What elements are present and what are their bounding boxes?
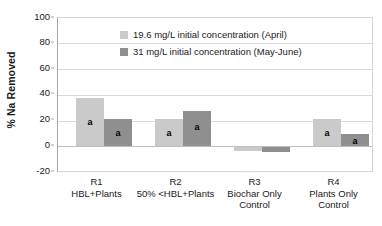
bar-r3-series1[interactable] bbox=[234, 147, 262, 151]
bar-r3-series2[interactable] bbox=[262, 147, 290, 152]
bar-label-r2-series2: a bbox=[194, 123, 199, 132]
x-label-r1-code: R1 bbox=[90, 176, 102, 187]
y-axis-title: % Na Removed bbox=[0, 0, 22, 180]
bar-label-r1-series2: a bbox=[115, 129, 120, 138]
bar-label-r1-series1: a bbox=[87, 118, 92, 127]
y-axis-title-text: % Na Removed bbox=[5, 51, 17, 128]
y-tick-label-40: 40 bbox=[39, 88, 50, 98]
x-label-group-r4: R4 Plants Only Control bbox=[290, 176, 378, 211]
bar-label-r2-series1: a bbox=[166, 129, 171, 138]
x-label-r3-code: R3 bbox=[248, 176, 260, 187]
y-tick-mark-neg20 bbox=[51, 171, 54, 172]
y-tick-mark-100 bbox=[51, 17, 54, 18]
y-tick-mark-40 bbox=[51, 93, 54, 94]
x-label-r4-line2: Plants Only bbox=[290, 188, 378, 200]
y-tick-mark-0 bbox=[51, 145, 54, 146]
x-label-r3-line2: Biochar Only bbox=[211, 188, 299, 200]
y-tick-mark-20 bbox=[51, 119, 54, 120]
bar-label-r4-series1: a bbox=[324, 129, 329, 138]
y-axis-tick-labels: 100 80 60 40 20 0 -20 bbox=[22, 0, 54, 180]
bar-label-r4-series2: a bbox=[352, 137, 357, 146]
legend-item-series2[interactable]: 31 mg/L initial concentration (May-June) bbox=[120, 43, 370, 60]
y-tick-label-60: 60 bbox=[39, 63, 50, 73]
legend-swatch-series2 bbox=[120, 48, 128, 56]
y-tick-mark-60 bbox=[51, 68, 54, 69]
legend-swatch-series1 bbox=[120, 31, 128, 39]
legend: 19.6 mg/L initial concentration (April) … bbox=[120, 26, 370, 60]
x-axis-labels: R1 HBL+Plants R2 50% <HBL+Plants R3 Bioc… bbox=[57, 176, 373, 224]
x-label-r4-line3: Control bbox=[290, 199, 378, 211]
bar-chart-figure: % Na Removed 100 80 60 40 20 0 -20 a bbox=[0, 0, 382, 226]
y-tick-label-20: 20 bbox=[39, 114, 50, 124]
y-tick-label-100: 100 bbox=[34, 12, 50, 22]
y-tick-mark-80 bbox=[51, 42, 54, 43]
y-tick-label-80: 80 bbox=[39, 37, 50, 47]
y-tick-label-0: 0 bbox=[45, 140, 50, 150]
x-label-r4-code: R4 bbox=[327, 176, 339, 187]
y-tick-label-neg20: -20 bbox=[36, 166, 50, 176]
legend-item-series1[interactable]: 19.6 mg/L initial concentration (April) bbox=[120, 26, 370, 43]
legend-label-series1: 19.6 mg/L initial concentration (April) bbox=[133, 30, 287, 40]
legend-label-series2: 31 mg/L initial concentration (May-June) bbox=[133, 47, 302, 57]
x-label-r2-code: R2 bbox=[169, 176, 181, 187]
x-label-group-r3: R3 Biochar Only Control bbox=[211, 176, 299, 211]
x-label-r3-line3: Control bbox=[211, 199, 299, 211]
